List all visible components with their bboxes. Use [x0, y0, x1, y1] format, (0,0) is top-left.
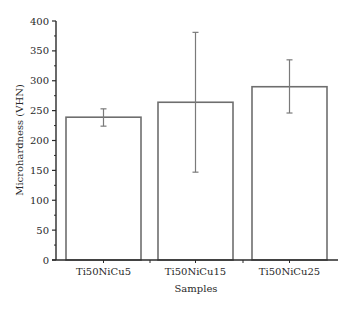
y-tick-label: 200 [30, 135, 49, 146]
y-axis: 050100150200250300350400 [30, 16, 56, 266]
y-tick-label: 50 [36, 225, 49, 236]
y-tick-label: 250 [30, 105, 49, 116]
y-tick-label: 400 [30, 16, 49, 27]
y-tick-label: 350 [30, 45, 49, 56]
x-tick-label: Ti50NiCu15 [165, 266, 226, 277]
y-tick-label: 0 [43, 255, 49, 266]
y-tick-label: 150 [30, 165, 49, 176]
y-axis-title: Microhardness (VHN) [14, 84, 25, 196]
bar-chart: 050100150200250300350400 Ti50NiCu5Ti50Ni… [0, 0, 353, 309]
bar-ti50nicu5 [66, 117, 141, 260]
x-axis: Ti50NiCu5Ti50NiCu15Ti50NiCu25 [52, 260, 338, 277]
x-tick-label: Ti50NiCu5 [76, 266, 131, 277]
y-tick-label: 100 [30, 195, 49, 206]
x-tick-label: Ti50NiCu25 [259, 266, 320, 277]
y-tick-label: 300 [30, 75, 49, 86]
x-axis-title: Samples [175, 283, 218, 294]
